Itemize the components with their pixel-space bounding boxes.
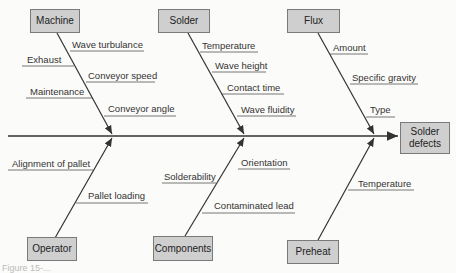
figure-caption: Figure 15-...: [2, 263, 51, 273]
category-label: Components: [155, 243, 212, 255]
cause-label: Temperature: [358, 178, 411, 189]
cause-label: Wave turbulance: [72, 39, 143, 50]
category-box-components: Components: [153, 236, 213, 261]
cause-label: Contaminated lead: [214, 200, 294, 211]
category-box-flux: Flux: [287, 9, 340, 33]
category-box-preheat: Preheat: [287, 240, 339, 264]
cause-label: Exhaust: [27, 54, 61, 65]
category-label: Machine: [36, 15, 74, 27]
cause-label: Pallet loading: [88, 190, 145, 201]
effect-label: Solder defects: [405, 126, 445, 150]
category-label: Solder: [170, 15, 199, 27]
cause-label: Specific gravity: [352, 72, 416, 83]
cause-label: Orientation: [241, 157, 287, 168]
cause-label: Solderability: [164, 171, 216, 182]
cause-label: Type: [370, 104, 391, 115]
category-label: Flux: [304, 15, 323, 27]
cause-label: Conveyor angle: [108, 103, 175, 114]
category-box-solder: Solder: [158, 9, 210, 33]
cause-label: Conveyor speed: [88, 70, 157, 81]
cause-label: Alignment of pallet: [12, 158, 90, 169]
category-box-operator: Operator: [27, 237, 77, 261]
cause-label: Amount: [333, 42, 366, 53]
effect-box: Solder defects: [400, 122, 450, 154]
cause-label: Wave height: [215, 60, 267, 71]
category-box-machine: Machine: [30, 9, 80, 33]
cause-label: Temperature: [202, 40, 255, 51]
category-label: Operator: [32, 243, 71, 255]
category-label: Preheat: [295, 246, 330, 258]
cause-label: Contact time: [227, 82, 280, 93]
cause-label: Wave fluidity: [241, 104, 295, 115]
cause-label: Maintenance: [30, 86, 84, 97]
